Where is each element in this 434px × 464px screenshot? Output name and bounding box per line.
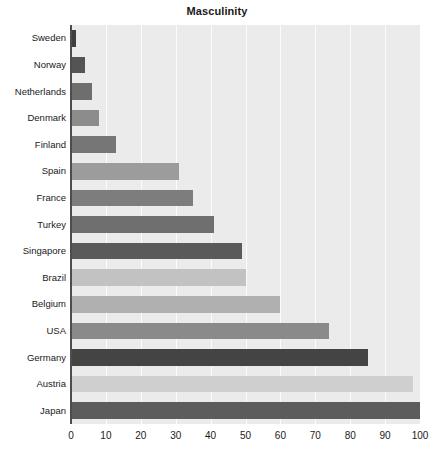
x-tick-label-0: 0 <box>68 430 74 441</box>
bar-japan[interactable] <box>71 402 420 418</box>
x-tick-label-80: 80 <box>345 430 356 441</box>
bar-row[interactable] <box>71 136 420 152</box>
bar-row[interactable] <box>71 402 420 418</box>
bar-singapore[interactable] <box>71 243 242 259</box>
y-tick-label-norway: Norway <box>0 59 66 70</box>
bar-row[interactable] <box>71 269 420 285</box>
y-tick-label-singapore: Singapore <box>0 245 66 256</box>
bar-row[interactable] <box>71 349 420 365</box>
bar-finland[interactable] <box>71 136 116 152</box>
bar-row[interactable] <box>71 190 420 206</box>
y-tick-label-finland: Finland <box>0 139 66 150</box>
masculinity-bar-chart: Masculinity SwedenNorwayNetherlandsDenma… <box>0 0 434 464</box>
y-tick-label-germany: Germany <box>0 352 66 363</box>
bar-row[interactable] <box>71 323 420 339</box>
y-tick-label-netherlands: Netherlands <box>0 86 66 97</box>
bar-spain[interactable] <box>71 163 179 179</box>
bar-austria[interactable] <box>71 376 413 392</box>
x-tick-label-30: 30 <box>170 430 181 441</box>
bar-row[interactable] <box>71 376 420 392</box>
gridline <box>420 25 421 424</box>
x-tick-label-90: 90 <box>380 430 391 441</box>
bar-usa[interactable] <box>71 323 329 339</box>
bar-row[interactable] <box>71 83 420 99</box>
x-tick-label-50: 50 <box>240 430 251 441</box>
bar-row[interactable] <box>71 30 420 46</box>
bars-layer <box>71 25 420 424</box>
y-tick-label-france: France <box>0 192 66 203</box>
y-tick-label-denmark: Denmark <box>0 112 66 123</box>
bar-netherlands[interactable] <box>71 83 92 99</box>
bar-france[interactable] <box>71 190 193 206</box>
x-axis-tick-labels: 0102030405060708090100 <box>0 430 434 450</box>
x-tick-label-10: 10 <box>100 430 111 441</box>
y-tick-label-turkey: Turkey <box>0 219 66 230</box>
bar-norway[interactable] <box>71 57 85 73</box>
bar-turkey[interactable] <box>71 216 214 232</box>
bar-row[interactable] <box>71 57 420 73</box>
y-tick-label-usa: USA <box>0 325 66 336</box>
x-tick-label-70: 70 <box>310 430 321 441</box>
x-tick-label-100: 100 <box>412 430 429 441</box>
bar-row[interactable] <box>71 243 420 259</box>
x-tick-label-20: 20 <box>135 430 146 441</box>
y-tick-label-spain: Spain <box>0 165 66 176</box>
bar-row[interactable] <box>71 163 420 179</box>
bar-row[interactable] <box>71 216 420 232</box>
bar-belgium[interactable] <box>71 296 280 312</box>
y-tick-label-sweden: Sweden <box>0 32 66 43</box>
bar-denmark[interactable] <box>71 110 99 126</box>
plot-area <box>71 25 420 424</box>
y-tick-label-austria: Austria <box>0 378 66 389</box>
y-axis-tick-labels: SwedenNorwayNetherlandsDenmarkFinlandSpa… <box>0 25 66 424</box>
bar-brazil[interactable] <box>71 269 246 285</box>
y-tick-label-japan: Japan <box>0 405 66 416</box>
bar-row[interactable] <box>71 296 420 312</box>
x-tick-label-40: 40 <box>205 430 216 441</box>
chart-title: Masculinity <box>0 5 434 17</box>
y-tick-label-belgium: Belgium <box>0 298 66 309</box>
y-axis-line <box>70 25 72 424</box>
y-tick-label-brazil: Brazil <box>0 272 66 283</box>
bar-row[interactable] <box>71 110 420 126</box>
bar-germany[interactable] <box>71 349 368 365</box>
x-tick-label-60: 60 <box>275 430 286 441</box>
